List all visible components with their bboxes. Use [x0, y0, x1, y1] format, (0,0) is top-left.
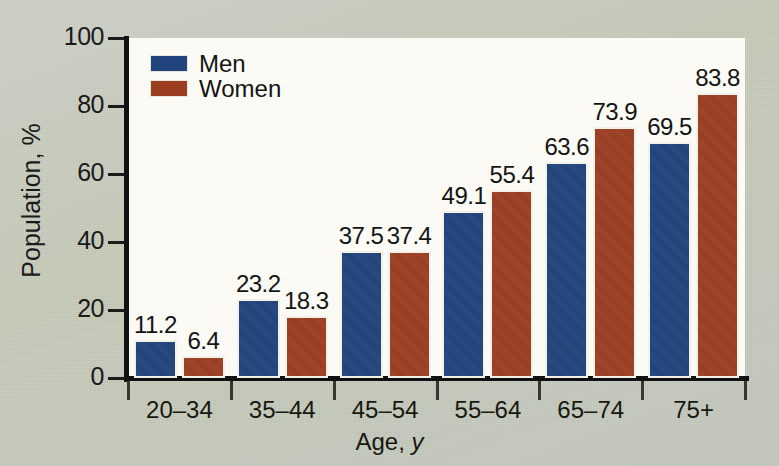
y-tick-20 — [108, 309, 125, 312]
legend-swatch-women — [150, 80, 188, 97]
bar-value-label: 69.5 — [639, 113, 700, 141]
y-tick-label-0: 0 — [44, 362, 104, 391]
y-tick-label-80: 80 — [44, 90, 104, 119]
bar-men-65-74 — [545, 162, 588, 378]
legend: MenWomen — [150, 52, 281, 102]
x-tick-label-20-34: 20–34 — [128, 396, 231, 424]
y-tick-40 — [108, 241, 125, 244]
bar-men-55-64 — [442, 211, 485, 378]
y-tick-0 — [108, 377, 125, 380]
y-tick-60 — [108, 173, 125, 176]
y-tick-100 — [108, 37, 125, 40]
bar-women-35-44 — [285, 316, 328, 378]
y-tick-label-60: 60 — [44, 158, 104, 187]
bar-men-45-54 — [340, 251, 383, 379]
bar-women-65-74 — [593, 127, 636, 378]
bar-women-20-34 — [182, 356, 225, 378]
bar-value-label: 18.3 — [276, 287, 337, 315]
bar-men-20-34 — [134, 340, 177, 378]
legend-label-women: Women — [199, 77, 281, 100]
bar-value-label: 55.4 — [481, 161, 542, 189]
bar-value-label: 37.4 — [379, 222, 440, 250]
y-tick-80 — [108, 105, 125, 108]
x-tick-label-55-64: 55–64 — [437, 396, 540, 424]
x-tick-label-45-54: 45–54 — [334, 396, 437, 424]
figure-bar-chart: 020406080100 Population, % 11.26.423.218… — [0, 0, 779, 466]
bar-women-55-64 — [490, 190, 533, 378]
y-axis-title: Population, % — [17, 86, 46, 316]
x-axis-title: Age, y — [0, 428, 779, 456]
bar-women-75+ — [696, 93, 739, 378]
legend-item-women: Women — [150, 77, 281, 100]
x-tick-label-35-44: 35–44 — [231, 396, 334, 424]
bar-value-label: 6.4 — [173, 327, 234, 355]
y-tick-label-100: 100 — [44, 22, 104, 51]
x-tick-label-75+: 75+ — [642, 396, 745, 424]
bar-value-label: 63.6 — [536, 133, 597, 161]
bar-men-75+ — [648, 142, 691, 378]
bar-women-45-54 — [388, 251, 431, 378]
x-tick-label-65-74: 65–74 — [539, 396, 642, 424]
legend-label-men: Men — [199, 52, 246, 75]
legend-item-men: Men — [150, 52, 281, 75]
y-tick-label-20: 20 — [44, 294, 104, 323]
bar-men-35-44 — [237, 299, 280, 378]
bar-value-label: 83.8 — [687, 64, 748, 92]
bar-value-label: 73.9 — [584, 98, 645, 126]
legend-swatch-men — [150, 55, 188, 72]
y-tick-label-40: 40 — [44, 226, 104, 255]
